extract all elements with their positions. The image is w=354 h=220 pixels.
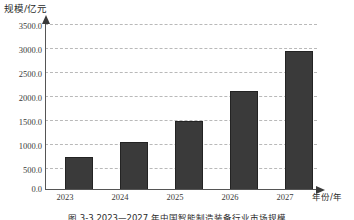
gridline-2500 (45, 72, 317, 73)
y-axis-line (45, 22, 46, 190)
y-tick-label-2000: 2000.0 (0, 93, 42, 103)
x-tick-label-2023: 2023 (41, 192, 89, 202)
y-tick-label-3000: 3000.0 (0, 45, 42, 55)
gridline-3500 (45, 24, 317, 25)
bar-2024 (120, 142, 148, 190)
y-tick-label-2500: 2500.0 (0, 69, 42, 79)
y-tick-label-0: 0.0 (0, 184, 42, 194)
bar-2026 (230, 91, 258, 190)
y-axis-arrow-icon (42, 15, 50, 24)
gridline-3000 (45, 48, 317, 49)
y-tick-label-1500: 1500.0 (0, 117, 42, 127)
figure-caption: 图 3-3 2023—2027 年中国智能制造装备行业市场规模 (0, 211, 354, 220)
bar-2027 (285, 51, 313, 190)
x-tick-label-2026: 2026 (206, 192, 254, 202)
x-axis-line (45, 189, 317, 190)
bar-2023 (65, 157, 93, 190)
x-tick-label-2025: 2025 (151, 192, 199, 202)
bar-chart-figure: 规模/亿元 3500.0 3000.0 2500.0 2000.0 1500.0… (0, 0, 354, 220)
plot-area (45, 22, 317, 190)
x-tick-label-2024: 2024 (96, 192, 144, 202)
bar-2025 (175, 121, 203, 190)
x-axis-title: 年份/年 (312, 190, 342, 202)
gridline-2000 (45, 96, 317, 97)
y-tick-label-3500: 3500.0 (0, 21, 42, 31)
y-tick-label-1000: 1000.0 (0, 141, 42, 151)
y-axis-title: 规模/亿元 (4, 1, 47, 15)
y-tick-label-500: 500.0 (0, 165, 42, 175)
x-tick-label-2027: 2027 (261, 192, 309, 202)
